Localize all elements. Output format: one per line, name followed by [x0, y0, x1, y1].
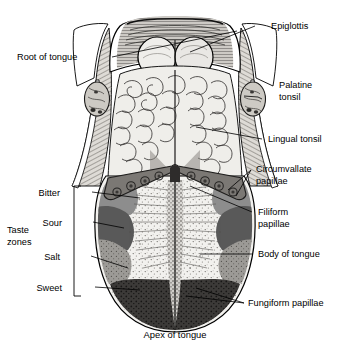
label-sour: Sour [43, 218, 62, 228]
label-root-of-tongue: Root of tongue [17, 52, 77, 62]
label-filiform-line2: papillae [258, 219, 290, 229]
label-body-of-tongue: Body of tongue [258, 249, 320, 259]
label-taste-zones-line1: Taste [7, 225, 29, 235]
label-lingual-tonsil: Lingual tonsil [268, 134, 322, 144]
tongue-diagram-figure: Epiglottis Root of tongue Palatine tonsi… [0, 0, 350, 353]
caption-apex-of-tongue: Apex of tongue [143, 329, 206, 340]
label-circumvallate-line1: Circumvallate [256, 164, 312, 174]
label-palatine-tonsil-line1: Palatine [279, 80, 312, 90]
label-epiglottis: Epiglottis [271, 21, 309, 31]
label-salt: Salt [44, 252, 60, 262]
label-fungiform-papillae: Fungiform papillae [248, 298, 324, 308]
palatine-tonsil-left [85, 82, 110, 116]
label-palatine-tonsil-line2: tonsil [279, 92, 300, 102]
label-taste-zones-line2: zones [7, 237, 32, 247]
diagram-canvas: Epiglottis Root of tongue Palatine tonsi… [0, 0, 350, 353]
label-sweet: Sweet [36, 283, 62, 293]
label-filiform-line1: Filiform [258, 207, 288, 217]
label-circumvallate-line2: papillae [256, 176, 288, 186]
lingual-tonsil-region [108, 66, 242, 178]
label-bitter: Bitter [39, 188, 60, 198]
